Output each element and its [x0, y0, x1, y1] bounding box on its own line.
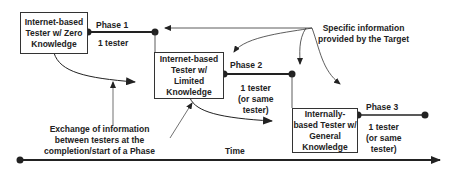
- box-line: Tester w/ Zero: [25, 28, 84, 39]
- tester-line: 1 tester: [238, 83, 273, 94]
- box-line: Knowledge: [25, 39, 84, 50]
- box-line: General: [293, 131, 356, 142]
- phase-1-testers: 1 tester: [98, 38, 128, 49]
- tester-line: 1 tester: [366, 122, 401, 133]
- tester-box-limited-knowledge: Internet-basedTester w/LimitedKnowledge: [154, 52, 224, 99]
- box-line: Internet-based: [160, 54, 219, 65]
- target-info-label: Specific informationprovided by the Targ…: [318, 23, 409, 45]
- phase-2-testers: 1 tester(or sametester): [238, 83, 273, 116]
- exchange-line: between testers at the: [44, 135, 155, 146]
- exchange-line: completion/start of a Phase: [44, 146, 155, 157]
- tester-line: (or same: [238, 94, 273, 105]
- box-line: Internet-based: [25, 17, 84, 28]
- tester-line: tester): [238, 105, 273, 116]
- box-line: Tester w/: [160, 65, 219, 76]
- exchange-info-label: Exchange of informationbetween testers a…: [44, 124, 155, 157]
- box-line: Knowledge: [160, 87, 219, 98]
- phase-3-label: Phase 3: [366, 102, 398, 113]
- box-line: Knowledge: [293, 142, 356, 153]
- box-line: Internally-: [293, 109, 356, 120]
- box-line: based Tester w/: [293, 120, 356, 131]
- target-info-line: Specific information: [318, 23, 409, 34]
- phase-1-label: Phase 1: [96, 20, 128, 31]
- tester-line: tester): [366, 144, 401, 155]
- time-axis-label: Time: [225, 146, 245, 157]
- tester-line: (or same: [366, 133, 401, 144]
- target-info-line: provided by the Target: [318, 34, 409, 45]
- box-line: Limited: [160, 76, 219, 87]
- phase-2-label: Phase 2: [230, 60, 262, 71]
- exchange-line: Exchange of information: [44, 124, 155, 135]
- tester-box-zero-knowledge: Internet-basedTester w/ ZeroKnowledge: [20, 12, 88, 54]
- tester-box-general-knowledge: Internally-based Tester w/GeneralKnowled…: [292, 108, 358, 153]
- phase-3-testers: 1 tester(or sametester): [366, 122, 401, 155]
